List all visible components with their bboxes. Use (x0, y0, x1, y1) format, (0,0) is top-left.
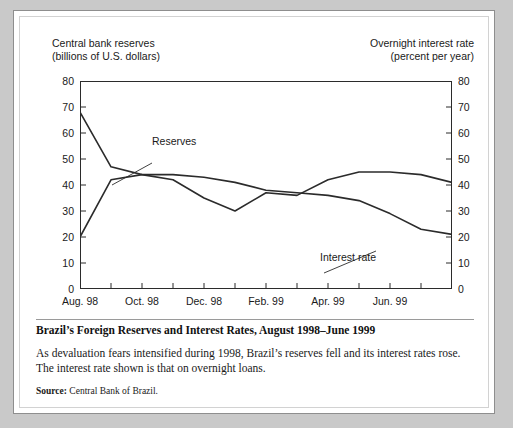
x-tick-label-2: Dec. 98 (186, 295, 222, 307)
caption-source-label: Source: (36, 386, 67, 396)
y-tick-right-70: 70 (458, 101, 486, 113)
y-tick-right-30: 30 (458, 205, 486, 217)
chart-area: Central bank reserves (billions of U.S. … (24, 23, 484, 315)
left-axis-tick-labels: 80706050403020100 (46, 81, 74, 289)
y-tick-left-50: 50 (46, 153, 74, 165)
series-line-interest-rate (80, 175, 452, 237)
plot-region (80, 81, 452, 289)
y-tick-left-30: 30 (46, 205, 74, 217)
series-line-reserves (80, 112, 452, 211)
x-tick-label-4: Apr. 99 (311, 295, 344, 307)
caption-block: Brazil’s Foreign Reserves and Interest R… (36, 323, 474, 398)
y-tick-right-0: 0 (458, 283, 486, 295)
y-tick-right-40: 40 (458, 179, 486, 191)
series-label-interest-rate: Interest rate (320, 251, 376, 263)
right-axis-title: Overnight interest rate (percent per yea… (370, 37, 474, 63)
figure-panel: Central bank reserves (billions of U.S. … (13, 10, 495, 414)
right-axis-tick-labels: 80706050403020100 (458, 81, 486, 289)
x-axis-tick-labels: Aug. 98Oct. 98Dec. 98Feb. 99Apr. 99Jun. … (80, 289, 452, 311)
y-tick-right-80: 80 (458, 75, 486, 87)
y-tick-right-50: 50 (458, 153, 486, 165)
y-tick-right-60: 60 (458, 127, 486, 139)
x-tick-label-5: Jun. 99 (373, 295, 407, 307)
y-tick-left-20: 20 (46, 231, 74, 243)
x-tick-label-1: Oct. 98 (125, 295, 159, 307)
y-tick-left-10: 10 (46, 257, 74, 269)
y-tick-right-10: 10 (458, 257, 486, 269)
y-tick-left-70: 70 (46, 101, 74, 113)
y-tick-left-40: 40 (46, 179, 74, 191)
y-tick-left-80: 80 (46, 75, 74, 87)
caption-title: Brazil’s Foreign Reserves and Interest R… (36, 323, 474, 338)
y-tick-left-60: 60 (46, 127, 74, 139)
page-background: Central bank reserves (billions of U.S. … (0, 0, 513, 428)
series-label-reserves: Reserves (152, 135, 196, 147)
x-tick-label-0: Aug. 98 (62, 295, 98, 307)
data-lines (80, 81, 452, 289)
caption-divider (36, 319, 474, 320)
caption-body: As devaluation fears intensified during … (36, 346, 474, 376)
y-tick-right-20: 20 (458, 231, 486, 243)
x-tick-label-3: Feb. 99 (248, 295, 284, 307)
caption-source-value: Central Bank of Brazil. (69, 386, 158, 396)
left-axis-title: Central bank reserves (billions of U.S. … (52, 37, 160, 63)
y-tick-left-0: 0 (46, 283, 74, 295)
caption-source: Source: Central Bank of Brazil. (36, 385, 474, 398)
